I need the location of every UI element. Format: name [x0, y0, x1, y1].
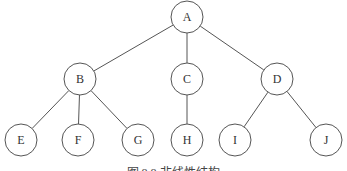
- node-h: H: [171, 124, 203, 156]
- nodes-group: ABCDEFGHIJ: [5, 1, 342, 156]
- node-j: J: [310, 124, 342, 156]
- node-label: H: [183, 133, 192, 147]
- node-c: C: [171, 63, 203, 95]
- edge-b-g: [91, 91, 127, 129]
- node-label: J: [324, 133, 329, 147]
- tree-diagram: ABCDEFGHIJ 图 8.8 非线性结构: [0, 0, 347, 171]
- edge-a-d: [200, 26, 264, 70]
- node-label: F: [75, 133, 82, 147]
- edge-d-i: [244, 92, 268, 127]
- edge-b-e: [32, 91, 69, 129]
- figure-caption: 图 8.8 非线性结构: [127, 165, 220, 171]
- edge-d-j: [287, 91, 316, 127]
- node-label: G: [134, 133, 143, 147]
- edge-b-f: [79, 95, 80, 124]
- node-i: I: [219, 124, 251, 156]
- node-g: G: [122, 124, 154, 156]
- node-label: I: [233, 133, 237, 147]
- edge-a-b: [94, 25, 173, 71]
- node-label: E: [17, 133, 24, 147]
- node-label: A: [183, 10, 192, 24]
- node-d: D: [261, 63, 293, 95]
- node-label: D: [273, 72, 282, 86]
- node-a: A: [171, 1, 203, 33]
- node-label: C: [183, 72, 191, 86]
- node-b: B: [64, 63, 96, 95]
- node-label: B: [76, 72, 84, 86]
- node-f: F: [62, 124, 94, 156]
- node-e: E: [5, 124, 37, 156]
